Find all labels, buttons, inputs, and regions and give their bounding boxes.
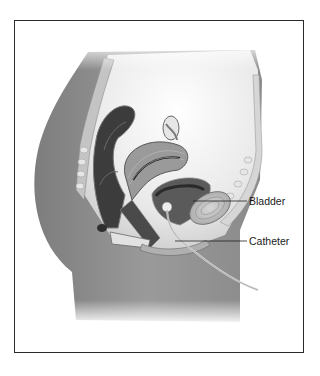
label-catheter: Catheter <box>249 235 289 247</box>
ovary <box>163 116 179 140</box>
body-silhouette <box>30 40 280 325</box>
pelvis-illustration <box>0 0 320 376</box>
label-bladder: Bladder <box>249 195 285 207</box>
